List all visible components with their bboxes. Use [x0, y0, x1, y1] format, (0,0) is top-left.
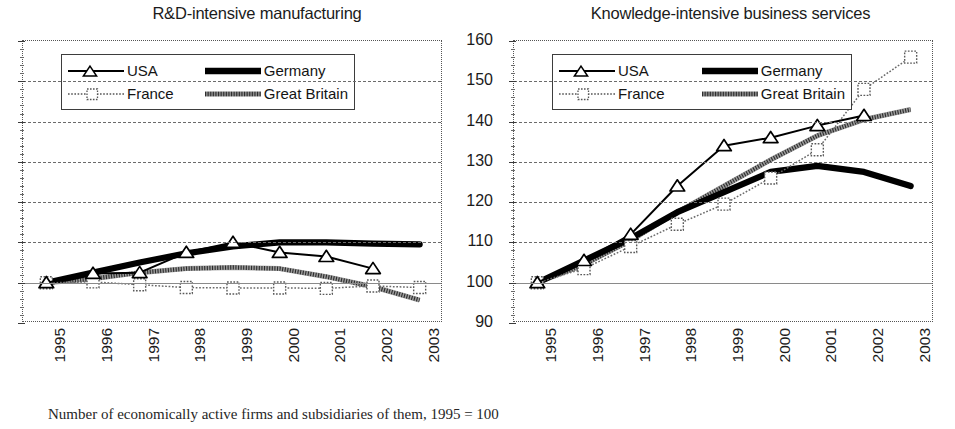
- y-axis-minor-tick: [511, 154, 515, 155]
- hatched-line-icon: [205, 87, 261, 101]
- baseline-100: [23, 283, 441, 284]
- baseline-100: [514, 283, 932, 284]
- x-axis-tick-label: 2001: [822, 328, 840, 362]
- y-axis-minor-tick: [20, 114, 24, 115]
- y-axis-minor-tick: [20, 275, 24, 276]
- y-axis-minor-tick: [511, 275, 515, 276]
- y-axis-tick: [509, 202, 516, 203]
- y-axis-minor-tick: [20, 267, 24, 268]
- y-axis-tick-label: 100: [466, 274, 493, 290]
- chart-title-right: Knowledge-intensive business services: [478, 4, 955, 23]
- y-axis-minor-tick: [20, 154, 24, 155]
- y-axis-minor-tick: [20, 73, 24, 74]
- legend-item-great-britain: Great Britain: [702, 82, 845, 105]
- legend-item-usa: USA: [559, 59, 698, 82]
- y-axis-minor-tick: [511, 226, 515, 227]
- x-axis-labels-left: 199519961997199819992000200120022003: [22, 326, 442, 396]
- x-axis-tick-label: 2000: [776, 328, 794, 362]
- y-axis-minor-tick: [511, 170, 515, 171]
- gridline: [514, 81, 932, 82]
- y-axis-tick: [509, 323, 516, 324]
- y-axis-minor-tick: [20, 65, 24, 66]
- gridline: [23, 162, 441, 163]
- y-axis-tick: [18, 122, 25, 123]
- legend-item-france: France: [68, 82, 201, 105]
- data-point-marker: [227, 282, 239, 294]
- y-axis-tick-label: 110: [467, 233, 493, 249]
- gridline: [514, 162, 932, 163]
- y-axis-minor-tick: [20, 234, 24, 235]
- x-axis-tick-label: 2001: [331, 328, 349, 362]
- y-axis-minor-tick: [20, 250, 24, 251]
- y-axis-minor-tick: [20, 49, 24, 50]
- gridline: [514, 122, 932, 123]
- dotted-line-square-marker-icon: [68, 87, 124, 101]
- y-axis-minor-tick: [511, 49, 515, 50]
- y-axis-minor-tick: [20, 105, 24, 106]
- y-axis-minor-tick: [511, 194, 515, 195]
- x-axis-tick-label: 2000: [285, 328, 303, 362]
- legend-label-germany: Germany: [264, 63, 326, 78]
- line-triangle-marker-icon: [68, 64, 124, 78]
- y-axis-tick: [509, 41, 516, 42]
- y-axis-minor-tick: [20, 186, 24, 187]
- y-axis-minor-tick: [511, 146, 515, 147]
- thick-solid-line-icon: [205, 64, 261, 78]
- x-axis-tick-label: 1997: [636, 328, 654, 362]
- chart-title-left: R&D-intensive manufacturing: [0, 4, 496, 23]
- y-axis-minor-tick: [511, 299, 515, 300]
- y-axis-tick: [509, 81, 516, 82]
- y-axis-tick: [18, 283, 25, 284]
- legend-label-germany: Germany: [761, 63, 823, 78]
- legend-item-france: France: [559, 82, 698, 105]
- y-axis-tick-label: 150: [466, 72, 493, 88]
- y-axis-minor-tick: [511, 250, 515, 251]
- y-axis-minor-tick: [20, 178, 24, 179]
- legend-label-great-britain: Great Britain: [761, 86, 845, 101]
- line-triangle-marker-icon: [559, 64, 615, 78]
- y-axis-minor-tick: [511, 210, 515, 211]
- y-axis-minor-tick: [20, 315, 24, 316]
- x-axis-tick-label: 2002: [869, 328, 887, 362]
- data-point-marker: [857, 109, 872, 120]
- y-axis-tick: [509, 283, 516, 284]
- y-axis-minor-tick: [511, 130, 515, 131]
- x-axis-tick-label: 1995: [51, 328, 69, 362]
- y-axis-minor-tick: [20, 146, 24, 147]
- y-axis-minor-tick: [20, 130, 24, 131]
- y-axis-minor-tick: [511, 57, 515, 58]
- y-axis-tick: [18, 81, 25, 82]
- y-axis-minor-tick: [511, 89, 515, 90]
- legend-item-great-britain: Great Britain: [205, 82, 348, 105]
- y-axis-tick-label: 120: [466, 193, 493, 209]
- y-axis-minor-tick: [511, 315, 515, 316]
- gridline: [514, 242, 932, 243]
- y-axis-tick-label: 130: [466, 153, 493, 169]
- legend-item-germany: Germany: [205, 59, 348, 82]
- data-point-marker: [134, 279, 146, 291]
- y-axis-minor-tick: [511, 65, 515, 66]
- y-axis-minor-tick: [20, 259, 24, 260]
- data-point-marker: [858, 83, 870, 95]
- legend-item-germany: Germany: [702, 59, 845, 82]
- y-axis-tick-label: 90: [475, 314, 493, 330]
- y-axis-minor-tick: [511, 291, 515, 292]
- data-point-marker: [905, 51, 917, 63]
- x-axis-tick-label: 1998: [682, 328, 700, 362]
- figure-caption: Number of economically active firms and …: [48, 406, 928, 423]
- y-axis-tick-label: 140: [466, 113, 493, 129]
- x-axis-tick-label: 1998: [191, 328, 209, 362]
- y-axis-minor-tick: [511, 97, 515, 98]
- y-axis-minor-tick: [511, 73, 515, 74]
- data-point-marker: [671, 218, 683, 230]
- y-axis-tick: [18, 323, 25, 324]
- x-axis-tick-label: 2003: [916, 328, 934, 362]
- x-axis-tick-label: 2002: [378, 328, 396, 362]
- legend-label-france: France: [618, 86, 665, 101]
- y-axis-minor-tick: [511, 234, 515, 235]
- gridline: [23, 202, 441, 203]
- y-axis-tick: [509, 242, 516, 243]
- gridline: [23, 122, 441, 123]
- y-axis-minor-tick: [20, 299, 24, 300]
- y-axis-minor-tick: [511, 259, 515, 260]
